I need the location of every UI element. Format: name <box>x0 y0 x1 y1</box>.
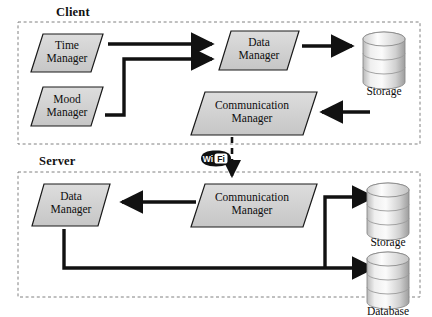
server-storage-label: Storage <box>358 236 418 248</box>
architecture-diagram: Wi Fi Client Server Time Manager Mood Ma… <box>0 0 432 317</box>
client-zone-label: Client <box>53 5 93 20</box>
arrow-mood-to-data <box>105 59 212 115</box>
time-manager-node <box>31 34 103 72</box>
server-zone-label: Server <box>36 154 79 169</box>
server-data-manager-node <box>32 184 110 226</box>
server-database-cylinder <box>367 252 409 309</box>
wifi-icon: Wi Fi <box>199 150 233 167</box>
server-storage-cylinder <box>367 183 409 240</box>
mood-manager-node <box>31 87 103 126</box>
wifi-text-fi: Fi <box>217 154 225 164</box>
client-storage-label: Storage <box>354 85 414 97</box>
client-data-manager-node <box>219 31 299 70</box>
server-database-label: Database <box>355 305 421 317</box>
wifi-text-wi: Wi <box>203 154 213 164</box>
server-communication-manager-node <box>191 184 317 227</box>
client-communication-manager-node <box>191 92 317 135</box>
arrow-server-communication-to-storage <box>325 197 373 268</box>
client-storage-cylinder <box>363 32 405 89</box>
